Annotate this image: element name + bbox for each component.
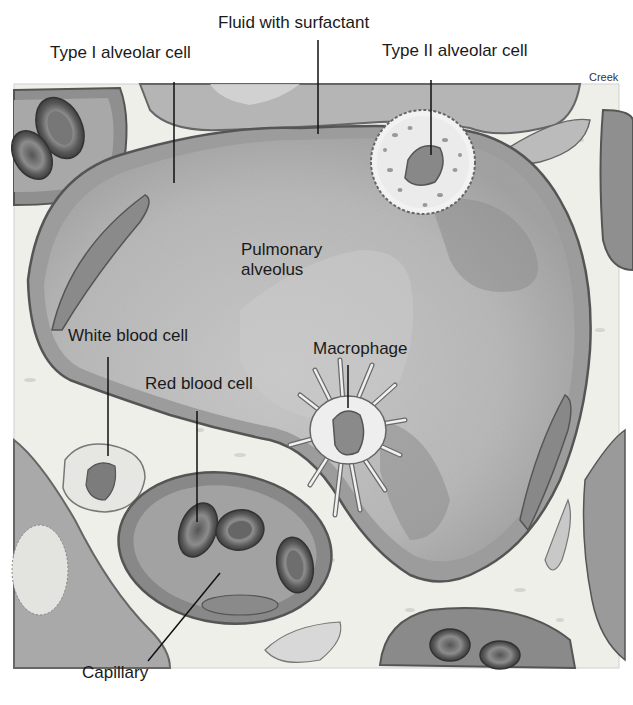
type-ii-alveolar-cell [371,110,475,214]
label-type-i-alveolar-cell: Type I alveolar cell [50,44,191,61]
label-white-blood-cell: White blood cell [68,327,188,344]
label-macrophage: Macrophage [313,340,408,357]
label-red-blood-cell: Red blood cell [145,375,253,392]
label-capillary: Capillary [82,664,148,681]
label-fluid-with-surfactant: Fluid with surfactant [218,14,369,31]
label-type-ii-alveolar-cell: Type II alveolar cell [382,42,528,59]
label-pulmonary-alveolus: Pulmonary alveolus [241,240,322,280]
white-blood-cell [63,444,145,512]
alveolus-diagram: Fluid with surfactant Type I alveolar ce… [0,0,633,705]
illustrator-credit: Creek [589,71,618,83]
